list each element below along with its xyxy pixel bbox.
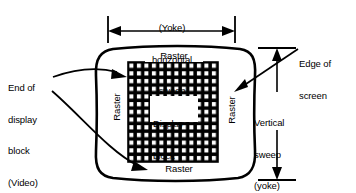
- end-of-display-line4: (Video): [8, 178, 60, 189]
- arrowhead-upper-leader: [111, 69, 127, 79]
- horizontal-sweep-line3: sweep: [134, 86, 210, 97]
- end-of-display-line3: block: [8, 146, 60, 157]
- edge-of-screen-leader: [234, 49, 298, 92]
- display-block-line1: Display: [153, 119, 197, 130]
- end-of-display-upper-leader: [53, 69, 127, 79]
- arrowhead-right: [222, 26, 235, 36]
- end-of-display-line1: End of: [8, 83, 60, 94]
- edge-of-screen-line1: Edge of: [299, 59, 355, 70]
- vertical-sweep-line3: (yoke): [254, 181, 310, 192]
- end-of-display-block-label: End of display block (Video): [8, 62, 60, 193]
- raster-top-label: Raster: [146, 51, 202, 62]
- vertical-sweep-line1: Vertical: [254, 118, 310, 129]
- raster-left-label: Raster: [112, 79, 123, 135]
- arrowhead-left: [108, 26, 121, 36]
- arrowhead-up: [272, 48, 282, 61]
- vertical-sweep-label: Vertical sweep (yoke): [254, 97, 310, 193]
- raster-right-label: Raster: [227, 82, 238, 138]
- horizontal-sweep-line1: (Yoke): [134, 23, 210, 34]
- display-block-line2: block: [153, 151, 197, 162]
- end-of-display-line2: display: [8, 115, 60, 126]
- crt-raster-diagram: (Yoke) horizontal sweep Edge of screen V…: [0, 0, 356, 193]
- raster-bottom-label: Raster: [151, 164, 207, 175]
- vertical-sweep-line2: sweep: [254, 150, 310, 161]
